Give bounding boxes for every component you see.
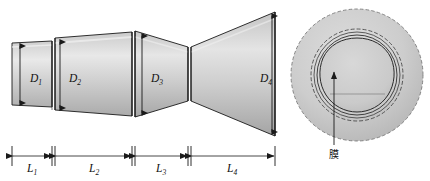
dimension-l1: L1: [13, 156, 51, 177]
dimension-l4: L4: [192, 156, 274, 177]
dimension-l1-label: L1: [26, 162, 37, 177]
nozzle-dimension-figure: D1 D2 D3 D4: [0, 0, 430, 181]
dimension-l2-label: L2: [88, 162, 99, 177]
dimension-l3: L3: [136, 156, 187, 177]
membrane-callout-label: 膜: [329, 149, 339, 160]
side-profile-view: D1 D2 D3 D4: [12, 12, 275, 177]
dimension-l3-label: L3: [155, 162, 166, 177]
dimension-l4-label: L4: [226, 162, 237, 177]
figure-canvas: D1 D2 D3 D4: [0, 0, 430, 181]
dimension-l2: L2: [56, 156, 131, 177]
end-view-membrane-opening: [320, 38, 394, 112]
body-section-l2: [55, 32, 132, 116]
length-dimension-chain: L1 L2 L3 L4: [12, 146, 275, 177]
end-face-view: 膜: [291, 9, 423, 160]
